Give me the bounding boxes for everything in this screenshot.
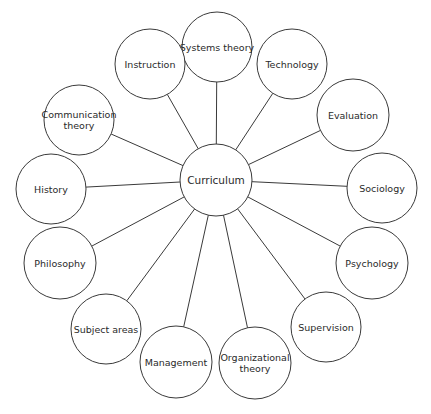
- node-label: Communication: [42, 109, 117, 120]
- node-label: Instruction: [125, 59, 176, 70]
- node-psychology: Psychology: [336, 227, 408, 299]
- node-label: Psychology: [345, 258, 399, 269]
- curriculum-diagram: Systems theoryTechnologyEvaluationSociol…: [0, 0, 431, 414]
- spoke-management: [184, 215, 209, 327]
- spoke-technology: [236, 93, 273, 150]
- spoke-sociology: [252, 182, 347, 187]
- spoke-philosophy: [92, 197, 184, 246]
- spoke-subject-areas: [127, 209, 195, 301]
- spoke-psychology: [248, 197, 340, 246]
- spoke-evaluation: [249, 130, 321, 164]
- node-supervision: Supervision: [291, 292, 361, 362]
- node-label: History: [34, 184, 68, 195]
- node-evaluation: Evaluation: [317, 79, 389, 151]
- node-systems-theory: Systems theory: [180, 12, 255, 82]
- node-instruction: Instruction: [115, 29, 185, 99]
- spoke-instruction: [167, 94, 198, 148]
- node-label: theory: [64, 120, 95, 131]
- node-sociology: Sociology: [347, 153, 417, 223]
- spoke-organizational-theory: [224, 215, 248, 328]
- spoke-history: [86, 182, 180, 187]
- node-label: theory: [240, 363, 271, 374]
- node-label: Supervision: [298, 322, 354, 333]
- node-history: History: [16, 154, 86, 224]
- node-management: Management: [140, 326, 212, 398]
- node-label: Management: [145, 357, 208, 368]
- node-label: Evaluation: [328, 110, 378, 121]
- node-subject-areas: Subject areas: [71, 294, 141, 364]
- node-label: Sociology: [359, 183, 405, 194]
- node-philosophy: Philosophy: [24, 227, 96, 299]
- center-node-curriculum: Curriculum: [180, 144, 252, 216]
- node-label: Systems theory: [180, 42, 255, 53]
- node-organizational-theory: Organizationaltheory: [219, 327, 291, 399]
- node-label: Technology: [264, 59, 319, 70]
- node-label: Philosophy: [34, 258, 86, 269]
- node-label: Subject areas: [74, 324, 139, 335]
- spoke-communication-theory: [111, 134, 183, 166]
- node-communication-theory: Communicationtheory: [42, 85, 117, 155]
- node-technology: Technology: [257, 29, 327, 99]
- node-label: Organizational: [220, 352, 289, 363]
- center-label: Curriculum: [187, 174, 245, 186]
